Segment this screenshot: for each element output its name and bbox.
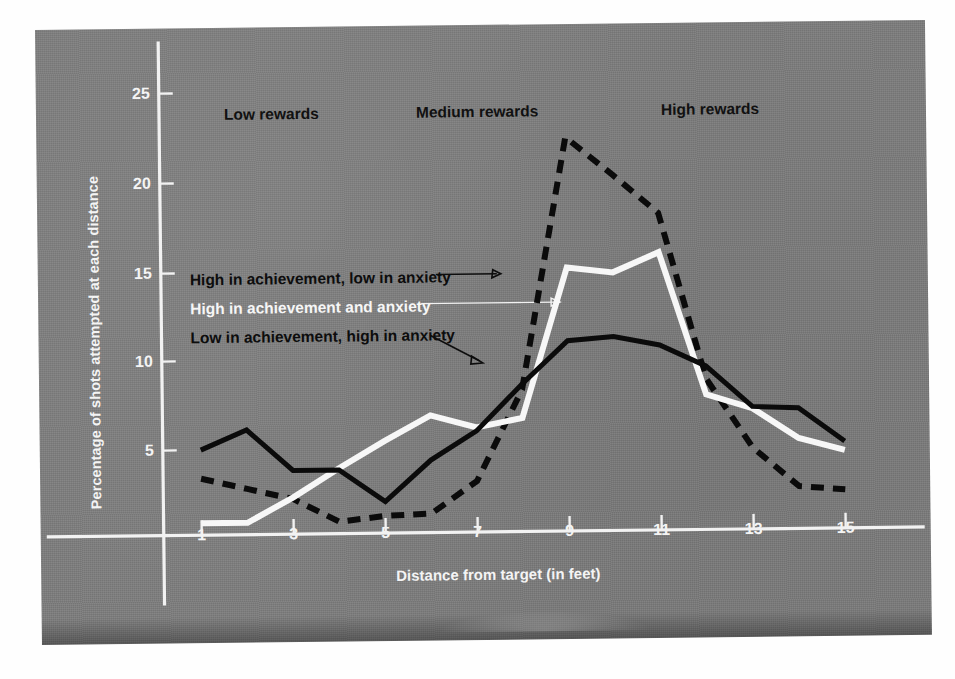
series-high-achievement-low-anxiety [197,134,845,523]
scanned-page-panel: Percentage of shots attempted at each di… [35,20,932,645]
leader-arrow-solid [471,356,483,364]
plot-area: Percentage of shots attempted at each di… [35,20,932,645]
chart-figure: Percentage of shots attempted at each di… [0,0,955,679]
x-axis-line [47,527,925,537]
leader-line-dashed [436,274,497,275]
leader-line-solid [430,335,479,362]
y-axis-line [158,42,164,606]
chart-canvas [35,20,932,645]
